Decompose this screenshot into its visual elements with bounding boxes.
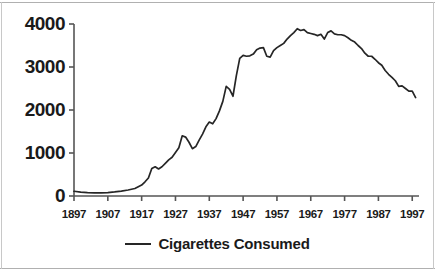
axes [69,24,419,201]
legend-label: Cigarettes Consumed [158,235,309,252]
y-axis-tick-label: 0 [3,186,65,205]
y-axis-tick-label: 2000 [3,100,65,119]
y-axis-tick-label: 1000 [3,143,65,162]
chart-figure: 01000200030004000 1897190719171927193719… [0,0,435,277]
y-axis-tick-label: 4000 [3,14,65,33]
data-series-group [74,29,416,193]
x-axis-tick-label: 1997 [390,208,434,220]
y-axis-tick-label: 3000 [3,57,65,76]
legend-line-swatch [125,243,151,245]
chart-legend: Cigarettes Consumed [0,235,435,252]
data-line-cigarettes-consumed [74,29,416,193]
